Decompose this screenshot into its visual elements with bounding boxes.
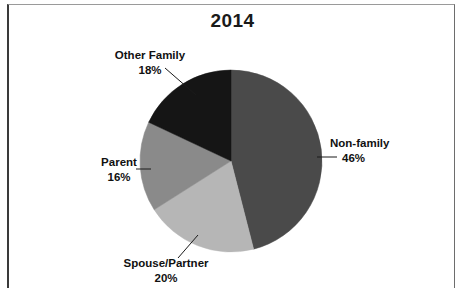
slice-label-non-family-value: 46%: [342, 151, 450, 166]
slice-label-other-family-value: 18%: [96, 63, 204, 78]
slice-label-parent: Parent 16%: [84, 155, 154, 184]
slice-label-spouse-partner-value: 20%: [96, 271, 236, 286]
pie-chart: 2014 Other Family 18% Non-family 46% Par…: [0, 0, 465, 288]
slice-label-other-family-name: Other Family: [115, 49, 185, 61]
pie-slices: [140, 70, 322, 252]
slice-label-other-family: Other Family 18%: [96, 48, 204, 77]
slice-label-non-family-name: Non-family: [330, 137, 389, 149]
slice-label-non-family: Non-family 46%: [330, 136, 450, 165]
slice-label-parent-value: 16%: [84, 170, 154, 185]
slice-label-spouse-partner-name: Spouse/Partner: [124, 257, 209, 269]
slice-label-parent-name: Parent: [101, 156, 137, 168]
slice-label-spouse-partner: Spouse/Partner 20%: [96, 256, 236, 285]
chart-screenshot: 2014 Other Family 18% Non-family 46% Par…: [0, 0, 465, 288]
